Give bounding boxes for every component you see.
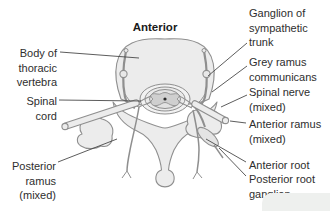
central-canal: [163, 97, 166, 100]
leader-anterior-ramus: [230, 121, 246, 123]
label-grey-ramus-communicans: Grey ramus communicans: [249, 55, 329, 84]
leader-grey-ramus-communicans: [212, 66, 247, 92]
right-nerve-continuation: [214, 145, 223, 158]
title-anterior: Anterior: [110, 21, 200, 33]
right-tube-open-end: [222, 117, 228, 123]
label-ganglion-of-sympathetic-trunk: Ganglion of sympathetic trunk: [249, 6, 329, 50]
anatomy-diagram: Anterior Body of thoracic vertebra Spina…: [0, 0, 330, 211]
leader-spinal-nerve: [221, 95, 247, 107]
leader-ganglion-of-sympathetic-trunk: [208, 43, 247, 76]
label-posterior-ramus: Posterior ramus (mixed): [6, 159, 56, 203]
label-anterior-ramus: Anterior ramus (mixed): [249, 117, 329, 146]
label-spinal-nerve: Spinal nerve (mixed): [249, 85, 329, 114]
left-tube-open-end: [62, 123, 68, 129]
right-posterior-ramus-branches: [193, 172, 202, 179]
label-spinal-cord: Spinal cord: [6, 94, 57, 123]
right-sympathetic-ganglion: [203, 70, 210, 77]
label-body-of-thoracic-vertebra: Body of thoracic vertebra: [6, 46, 57, 90]
label-anterior-root: Anterior root: [249, 158, 329, 173]
leader-anterior-root: [206, 139, 246, 162]
left-trunk-tip: [124, 49, 128, 53]
leader-posterior-root-ganglion: [219, 148, 246, 176]
right-trunk-tip: [202, 49, 206, 53]
left-sympathetic-ganglion: [120, 70, 127, 77]
spinal-cord-section: [140, 84, 190, 114]
left-posterior-ramus-branches: [122, 171, 131, 178]
page-corner-shade: [262, 193, 330, 211]
